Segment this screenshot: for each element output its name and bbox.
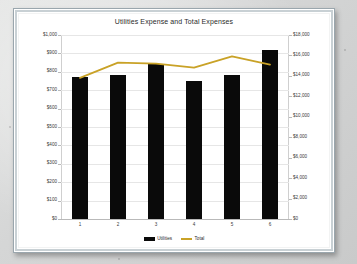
right-axis-tick-label: $8,000 <box>293 135 307 140</box>
left-axis-tick-label: $900 <box>47 51 57 56</box>
right-axis-tick-label: $6,000 <box>293 155 307 160</box>
x-axis-category-label: 3 <box>137 223 175 228</box>
image-speckle <box>118 258 120 260</box>
x-axis-category-label: 6 <box>251 223 289 228</box>
left-axis-tick-label: $100 <box>47 198 57 203</box>
chart-window-frame: Utilities Expense and Total Expenses $1,… <box>13 8 335 253</box>
x-axis-category-label: 2 <box>99 223 137 228</box>
legend-item-utilities[interactable]: Utilities <box>144 236 172 241</box>
line-swatch-icon <box>181 237 192 241</box>
right-axis-tickmark <box>289 55 292 56</box>
left-axis-tick-label: $400 <box>47 143 57 148</box>
left-axis-tick-label: $200 <box>47 180 57 185</box>
right-axis-tickmark <box>289 158 292 159</box>
right-axis-tick-label: $0 <box>293 217 298 222</box>
right-axis-tick-label: $10,000 <box>293 114 310 119</box>
left-axis-tick-label: $600 <box>47 106 57 111</box>
x-axis-category-label: 4 <box>175 223 213 228</box>
legend-label-total: Total <box>195 236 205 241</box>
gridline <box>61 219 289 220</box>
chart-canvas: Utilities Expense and Total Expenses $1,… <box>19 14 329 247</box>
right-axis-tick-label: $2,000 <box>293 196 307 201</box>
image-speckle <box>9 126 11 128</box>
left-axis-tickmark <box>58 219 61 220</box>
right-axis-tickmark <box>289 137 292 138</box>
plot-area: $1,000$900$800$700$600$500$400$300$200$1… <box>61 35 289 219</box>
left-axis-tick-label: $800 <box>47 69 57 74</box>
x-axis-category-label: 5 <box>213 223 251 228</box>
right-axis-tickmark <box>289 199 292 200</box>
legend-label-utilities: Utilities <box>157 236 172 241</box>
left-axis-tick-label: $0 <box>52 217 57 222</box>
x-axis-category-label: 1 <box>61 223 99 228</box>
chart-legend: Utilities Total <box>19 236 329 241</box>
right-axis-tick-label: $14,000 <box>293 73 310 78</box>
legend-item-total[interactable]: Total <box>181 236 204 241</box>
image-speckle <box>344 49 346 51</box>
left-axis-tick-label: $1,000 <box>43 33 57 38</box>
left-axis-tick-label: $500 <box>47 125 57 130</box>
right-axis-tick-label: $18,000 <box>293 33 310 38</box>
total-line-series[interactable] <box>61 35 289 219</box>
right-axis-tickmark <box>289 219 292 220</box>
bar-swatch-icon <box>144 237 155 241</box>
right-axis-tick-label: $16,000 <box>293 53 310 58</box>
right-axis-tick-label: $12,000 <box>293 94 310 99</box>
right-axis-tickmark <box>289 76 292 77</box>
right-axis-tickmark <box>289 178 292 179</box>
chart-title: Utilities Expense and Total Expenses <box>19 18 329 25</box>
right-axis-tickmark <box>289 35 292 36</box>
total-line-path <box>80 56 270 77</box>
left-axis-tick-label: $700 <box>47 88 57 93</box>
left-axis-tick-label: $300 <box>47 161 57 166</box>
right-axis-tick-label: $4,000 <box>293 176 307 181</box>
right-axis-tickmark <box>289 117 292 118</box>
screenshot-page: Utilities Expense and Total Expenses $1,… <box>0 0 357 264</box>
right-axis-tickmark <box>289 96 292 97</box>
